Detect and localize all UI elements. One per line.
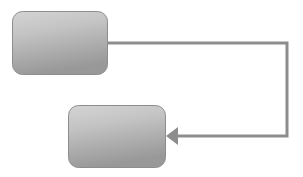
process-node-1[interactable] [13, 12, 108, 75]
diagram-canvas [0, 0, 303, 177]
process-node-2[interactable] [69, 106, 166, 168]
arrowhead-icon [166, 127, 178, 145]
diagram-surface [0, 0, 303, 177]
